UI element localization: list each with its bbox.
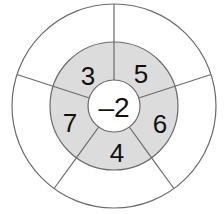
target-wheel-diagram: 3 5 6 4 7 –2 [0, 0, 224, 214]
center-value-label: –2 [98, 92, 129, 123]
segment-6-label: 6 [153, 109, 167, 139]
segment-4-label: 4 [110, 138, 124, 168]
segment-5-label: 5 [134, 59, 148, 89]
wheel-svg: 3 5 6 4 7 –2 [0, 0, 224, 214]
segment-7-label: 7 [63, 108, 77, 138]
segment-3-label: 3 [81, 61, 95, 91]
